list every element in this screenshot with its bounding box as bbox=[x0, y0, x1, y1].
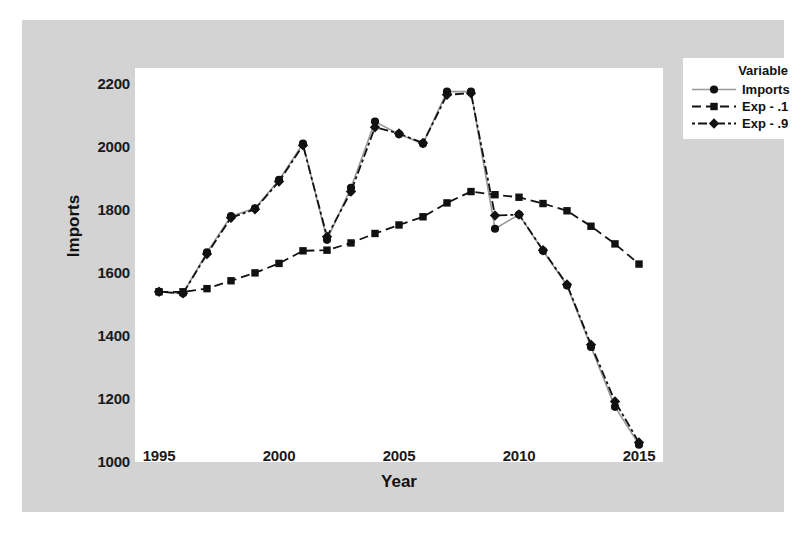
data-point-marker bbox=[563, 207, 570, 214]
data-point-marker bbox=[394, 128, 404, 138]
legend-item[interactable]: Exp - .1 bbox=[691, 98, 788, 115]
y-axis-tick-label: 1200 bbox=[97, 390, 130, 407]
data-point-marker bbox=[418, 138, 428, 148]
plot-svg bbox=[135, 68, 663, 462]
x-axis-title: Year bbox=[135, 472, 663, 492]
series-exp-1 bbox=[155, 188, 642, 296]
data-point-marker bbox=[710, 85, 718, 93]
series-exp-9 bbox=[154, 88, 644, 448]
data-point-marker bbox=[587, 223, 594, 230]
data-point-marker bbox=[514, 209, 524, 219]
solid-circle-key bbox=[691, 82, 737, 97]
series-imports bbox=[155, 88, 643, 449]
data-point-marker bbox=[491, 191, 498, 198]
legend-item-label: Exp - .1 bbox=[737, 99, 788, 114]
series-line bbox=[159, 92, 639, 445]
data-point-marker bbox=[491, 225, 499, 233]
y-axis-tick-label: 2200 bbox=[97, 75, 130, 92]
data-point-marker bbox=[539, 200, 546, 207]
data-point-marker bbox=[710, 103, 717, 110]
y-axis-tick-label: 1400 bbox=[97, 327, 130, 344]
data-point-marker bbox=[371, 230, 378, 237]
x-axis-tick-label: 2005 bbox=[369, 447, 429, 464]
series-line bbox=[159, 192, 639, 292]
y-axis-tick-label: 1600 bbox=[97, 264, 130, 281]
data-point-marker bbox=[611, 240, 618, 247]
data-point-marker bbox=[275, 260, 282, 267]
x-axis-tick-label: 2015 bbox=[609, 447, 669, 464]
chart-page: 1000120014001600180020002200 Imports 199… bbox=[0, 0, 806, 533]
legend-item-label: Imports bbox=[737, 82, 790, 97]
data-point-marker bbox=[323, 246, 330, 253]
figure-panel: 1000120014001600180020002200 Imports 199… bbox=[22, 20, 784, 512]
legend-items: ImportsExp - .1Exp - .9 bbox=[691, 81, 788, 132]
x-axis-tick-label: 2010 bbox=[489, 447, 549, 464]
legend-item[interactable]: Exp - .9 bbox=[691, 115, 788, 132]
data-point-marker bbox=[467, 188, 474, 195]
dashdot-diamond-key bbox=[691, 116, 737, 131]
data-point-marker bbox=[347, 239, 354, 246]
y-axis-tick-label: 2000 bbox=[97, 138, 130, 155]
y-axis-tick-label: 1800 bbox=[97, 201, 130, 218]
data-point-marker bbox=[443, 199, 450, 206]
data-point-marker bbox=[203, 285, 210, 292]
legend: Variable ImportsExp - .1Exp - .9 bbox=[683, 58, 797, 139]
data-point-marker bbox=[299, 247, 306, 254]
x-axis-tick-label: 2000 bbox=[249, 447, 309, 464]
legend-item[interactable]: Imports bbox=[691, 81, 788, 98]
data-point-marker bbox=[709, 118, 719, 128]
dashed-square-key bbox=[691, 99, 737, 114]
x-axis-tick-labels: 19952000200520102015 bbox=[22, 447, 784, 471]
x-axis-tick-label: 1995 bbox=[129, 447, 189, 464]
series-line bbox=[159, 93, 639, 442]
plot-area bbox=[135, 68, 663, 462]
data-point-marker bbox=[395, 221, 402, 228]
legend-item-label: Exp - .9 bbox=[737, 116, 788, 131]
data-point-marker bbox=[515, 194, 522, 201]
data-point-marker bbox=[635, 260, 642, 267]
legend-title: Variable bbox=[691, 63, 788, 78]
data-point-marker bbox=[466, 88, 476, 98]
y-axis-title: Imports bbox=[64, 166, 84, 286]
data-point-marker bbox=[227, 277, 234, 284]
data-point-marker bbox=[251, 269, 258, 276]
data-point-marker bbox=[419, 213, 426, 220]
